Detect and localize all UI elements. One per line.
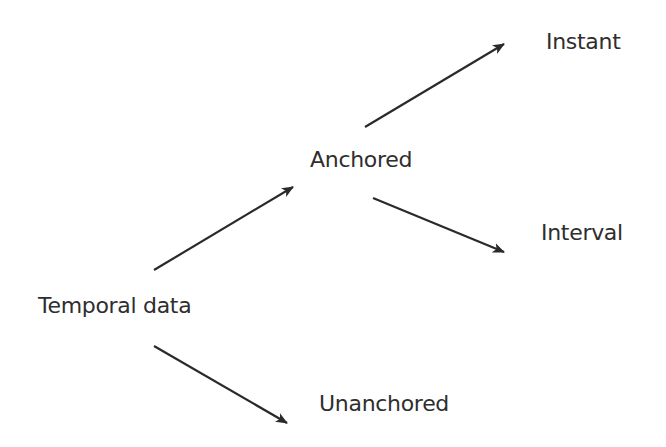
arrow-anchored-to-interval xyxy=(373,198,504,252)
edges-group xyxy=(154,44,504,423)
node-interval: Interval xyxy=(541,222,623,244)
node-temporal-data: Temporal data xyxy=(38,295,191,317)
node-unanchored: Unanchored xyxy=(319,393,449,415)
node-anchored: Anchored xyxy=(310,149,412,171)
temporal-data-taxonomy-diagram: Temporal data Anchored Unanchored Instan… xyxy=(0,0,666,447)
arrow-anchored-to-instant xyxy=(365,44,504,127)
arrow-temporal-data-to-unanchored xyxy=(154,346,287,423)
arrow-temporal-data-to-anchored xyxy=(154,187,293,270)
node-instant: Instant xyxy=(546,31,620,53)
